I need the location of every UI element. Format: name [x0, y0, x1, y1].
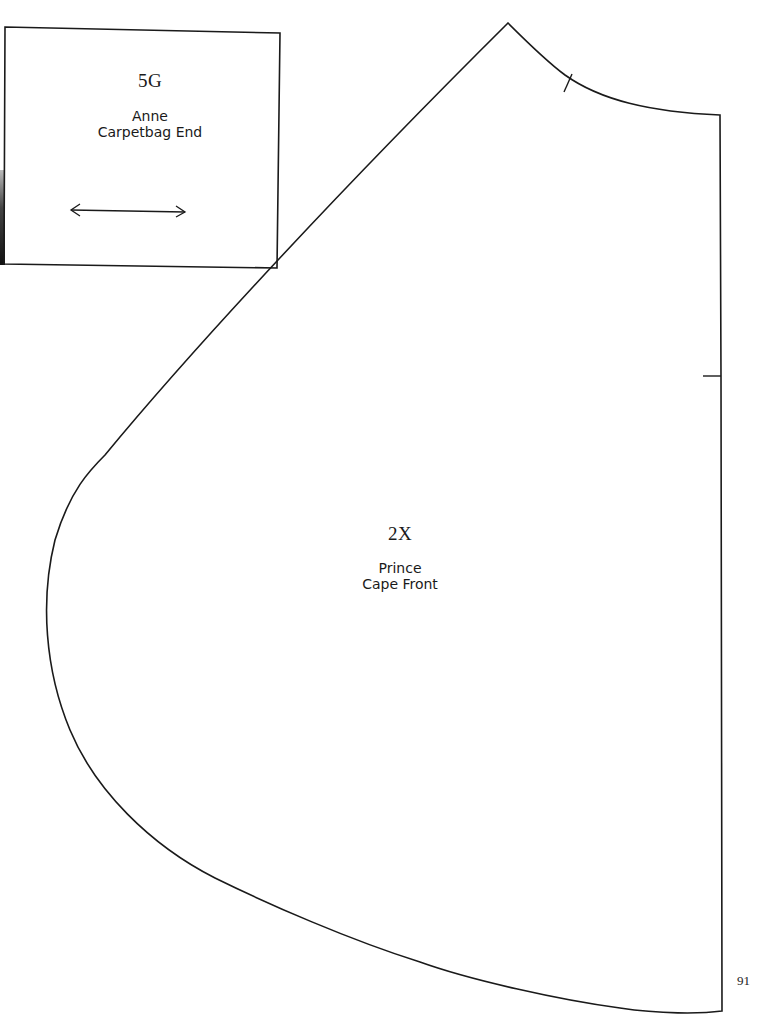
- pattern-page: 5G Anne Carpetbag End 2X Prince Cape Fro…: [0, 0, 775, 1019]
- grainline-arrow-icon: [71, 204, 185, 217]
- piece-name-anne: Anne Carpetbag End: [60, 108, 240, 140]
- piece-code-5g: 5G: [110, 70, 190, 92]
- piece-name-line2: Cape Front: [310, 576, 490, 592]
- page-number: 91: [737, 973, 750, 989]
- pattern-outlines: [0, 0, 775, 1019]
- piece-name-line1: Prince: [310, 560, 490, 576]
- carpetbag-end-outline: [4, 27, 280, 268]
- piece-name-line1: Anne: [60, 108, 240, 124]
- piece-name-line2: Carpetbag End: [60, 124, 240, 140]
- piece-name-prince: Prince Cape Front: [310, 560, 490, 592]
- cape-front-outline: [47, 23, 722, 1013]
- piece-code-2x: 2X: [360, 523, 440, 545]
